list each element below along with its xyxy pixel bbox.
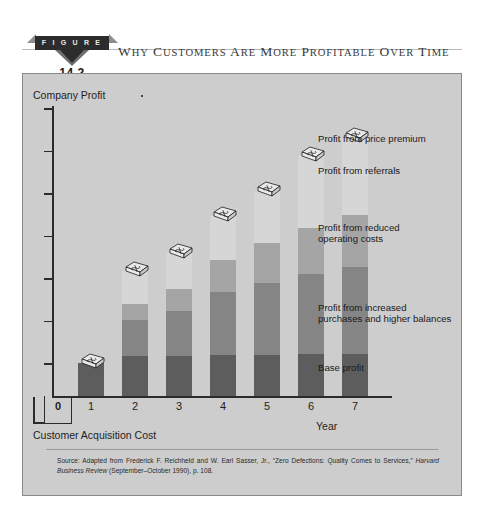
bar-segment-profit-from-increased-purchases-and-higher-balances [122, 320, 148, 356]
acquisition-cost-label: Customer Acquisition Cost [33, 429, 156, 441]
bar-segment-profit-from-referrals [254, 191, 280, 243]
y-axis-tick [44, 363, 52, 365]
y-axis-tick [44, 236, 52, 238]
bar-segment-profit-from-reduced-operating-costs [254, 243, 280, 283]
badge-wing-right-icon [109, 34, 118, 43]
title-word: PROFITABLE [301, 44, 375, 59]
table-row [166, 253, 192, 396]
bar-segment-base-profit [254, 355, 280, 396]
badge-triangle-inner-icon [60, 50, 84, 63]
y-axis-tick [44, 193, 52, 195]
figure-title: WHY CUSTOMERS ARE MORE PROFITABLE OVER T… [118, 44, 449, 60]
figure-page: F I G U R E 14.2 WHY CUSTOMERS ARE MORE … [0, 0, 483, 518]
x-axis-line [52, 396, 392, 398]
annotation-reduced-costs-line2: operating costs [318, 233, 383, 245]
money-icon [168, 243, 194, 260]
x-tick-label-1: 1 [81, 400, 101, 412]
bar-segment-profit-from-increased-purchases-and-higher-balances [166, 311, 192, 356]
source-text-2: (September–October 1990), p. 108. [107, 467, 213, 474]
x-tick-label-2: 2 [125, 400, 145, 412]
figure-badge-label: F I G U R E [35, 36, 109, 50]
x-tick-label-3: 3 [169, 400, 189, 412]
money-icon [300, 146, 326, 163]
bar-segment-base-profit [122, 356, 148, 396]
annotation-price-premium: Profit from price premium [318, 133, 426, 145]
money-icon [212, 206, 238, 223]
annotation-base-profit: Base profit [318, 362, 364, 374]
x-axis-title: Year [316, 420, 337, 432]
title-word: ARE [230, 44, 256, 59]
bar-segment-profit-from-increased-purchases-and-higher-balances [210, 292, 236, 355]
decorative-dot [141, 95, 143, 97]
x-tick-label-5: 5 [257, 400, 277, 412]
y-axis-tick [44, 321, 52, 323]
table-row [298, 156, 324, 396]
x-tick-label-4: 4 [213, 400, 233, 412]
title-word: TIME [418, 44, 449, 59]
money-icon [256, 181, 282, 198]
table-row [210, 216, 236, 396]
source-text-1: Source: Adapted from Frederick F. Reichh… [57, 457, 416, 464]
figure-header: F I G U R E 14.2 WHY CUSTOMERS ARE MORE … [0, 14, 483, 70]
y-axis-title: Company Profit [33, 89, 105, 101]
x-tick-label-7: 7 [345, 400, 365, 412]
x-tick-label-0: 0 [48, 400, 68, 412]
acquisition-bracket-bottom [33, 422, 45, 424]
source-note: Source: Adapted from Frederick F. Reichh… [57, 456, 439, 476]
annotation-referrals: Profit from referrals [318, 165, 400, 177]
bar-segment-base-profit [342, 354, 368, 396]
bar-segment-profit-from-reduced-operating-costs [122, 304, 148, 320]
title-word: CUSTOMERS [153, 44, 226, 59]
y-axis-tick [44, 151, 52, 153]
money-icon [80, 353, 106, 370]
source-rule [46, 449, 438, 450]
table-row [254, 191, 280, 396]
title-word: MORE [260, 44, 297, 59]
acquisition-bracket-left [33, 397, 35, 424]
y-axis-tick [44, 278, 52, 280]
bar-segment-profit-from-reduced-operating-costs [210, 260, 236, 292]
bar-segment-profit-from-reduced-operating-costs [166, 289, 192, 311]
bar-segment-base-profit [298, 354, 324, 396]
table-row [122, 271, 148, 396]
bar-segment-base-profit [166, 356, 192, 396]
x-tick-label-6: 6 [301, 400, 321, 412]
y-axis-line [52, 106, 54, 396]
money-icon [124, 261, 150, 278]
annotation-increased-purchases-line2: purchases and higher balances [318, 313, 451, 325]
bar-segment-profit-from-increased-purchases-and-higher-balances [254, 283, 280, 355]
bar-segment-base-profit [210, 355, 236, 396]
title-word: OVER [380, 44, 415, 59]
title-word: WHY [118, 44, 149, 59]
y-axis-tick [44, 108, 52, 110]
